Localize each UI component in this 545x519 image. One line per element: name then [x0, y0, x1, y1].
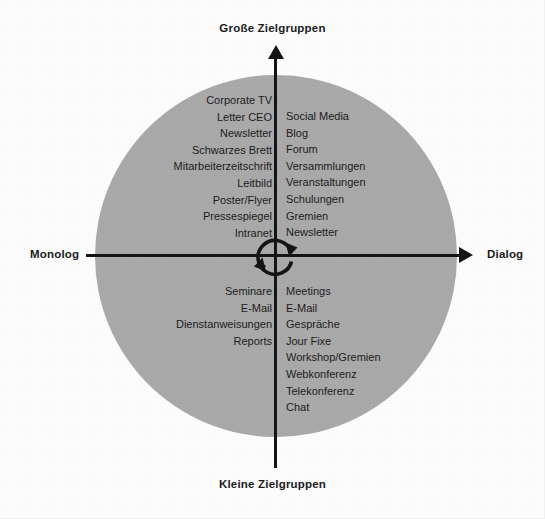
list-item: Dienstanweisungen	[176, 316, 272, 333]
quadrant-top-right-list: Social Media Blog Forum Versammlungen Ve…	[286, 108, 366, 241]
cycle-arrow-icon	[249, 230, 303, 284]
list-item: Workshop/Gremien	[286, 349, 381, 366]
axis-arrow-right-icon	[459, 247, 473, 263]
list-item: Schwarzes Brett	[174, 142, 272, 159]
list-item: Gremien	[286, 208, 366, 225]
list-item: Corporate TV	[174, 92, 272, 109]
axis-label-monolog: Monolog	[30, 248, 79, 260]
quadrant-top-left-list: Corporate TV Letter CEO Newsletter Schwa…	[174, 92, 272, 241]
list-item: Veranstaltungen	[286, 174, 366, 191]
list-item: E-Mail	[176, 300, 272, 317]
list-item: Forum	[286, 141, 366, 158]
axis-label-dialog: Dialog	[487, 248, 523, 260]
list-item: E-Mail	[286, 300, 381, 317]
list-item: Telekonferenz	[286, 383, 381, 400]
list-item: Letter CEO	[174, 109, 272, 126]
list-item: Versammlungen	[286, 158, 366, 175]
list-item: Leitbild	[174, 175, 272, 192]
list-item: Chat	[286, 399, 381, 416]
list-item: Seminare	[176, 283, 272, 300]
list-item: Gespräche	[286, 316, 381, 333]
list-item: Meetings	[286, 283, 381, 300]
axis-label-kleine-zielgruppen: Kleine Zielgruppen	[0, 478, 545, 490]
list-item: Blog	[286, 125, 366, 142]
axis-arrow-up-icon	[268, 45, 284, 59]
list-item: Poster/Flyer	[174, 192, 272, 209]
quadrant-bottom-left-list: Seminare E-Mail Dienstanweisungen Report…	[176, 283, 272, 349]
list-item: Schulungen	[286, 191, 366, 208]
list-item: Newsletter	[174, 125, 272, 142]
list-item: Pressespiegel	[174, 208, 272, 225]
list-item: Mitarbeiterzeitschrift	[174, 158, 272, 175]
list-item: Reports	[176, 333, 272, 350]
list-item: Social Media	[286, 108, 366, 125]
list-item: Webkonferenz	[286, 366, 381, 383]
list-item: Jour Fixe	[286, 333, 381, 350]
diagram-canvas: Monolog Dialog Große Zielgruppen Kleine …	[0, 0, 545, 519]
axis-label-grosse-zielgruppen: Große Zielgruppen	[0, 22, 545, 34]
quadrant-bottom-right-list: Meetings E-Mail Gespräche Jour Fixe Work…	[286, 283, 381, 416]
